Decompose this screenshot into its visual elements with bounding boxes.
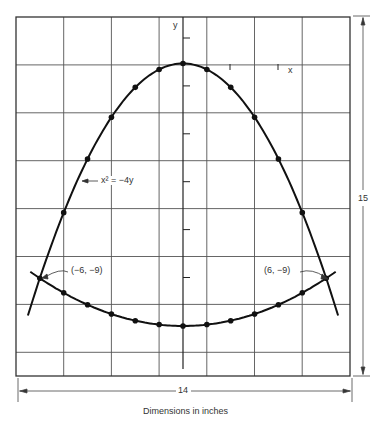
caption: Dimensions in inches [143,407,228,416]
left-intersection-label: (−6, −9) [71,266,103,275]
annotation-arrows [42,179,328,279]
right-intersection-label: (6, −9) [264,266,290,275]
y-axis-label: y [173,21,178,30]
axes [183,17,278,369]
parabola-diagram [0,0,385,427]
equation-label: x² = −4y [101,176,134,185]
height-dimension-label: 15 [358,194,368,203]
x-axis-label: x [288,66,293,75]
width-dimension-label: 14 [178,386,188,395]
